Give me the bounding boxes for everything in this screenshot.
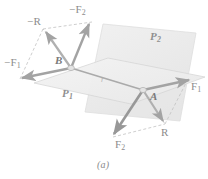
vector-label-neg-f1: −F1 (4, 57, 21, 70)
vector-neg-f2 (71, 24, 89, 68)
distance-label-r: r (101, 76, 104, 84)
point-label-b: B (55, 55, 63, 66)
plane-label-p1: P1 (62, 88, 73, 101)
vector-label-neg-r: −R (27, 16, 41, 29)
vector-label-f1: F1 (191, 81, 201, 94)
force-vector-figure: −F1 −F2 −R F1 F2 R B A P1 P2 r (a) (0, 0, 208, 179)
point-label-a: A (150, 91, 158, 102)
vector-label-f2: F2 (115, 139, 125, 152)
figure-caption: (a) (97, 160, 109, 170)
vector-label-r: R (161, 127, 169, 140)
plane-label-p2: P2 (150, 31, 161, 44)
vector-label-neg-f2: −F2 (69, 4, 86, 17)
point-marker-b (68, 65, 75, 70)
point-marker-a (140, 87, 147, 92)
